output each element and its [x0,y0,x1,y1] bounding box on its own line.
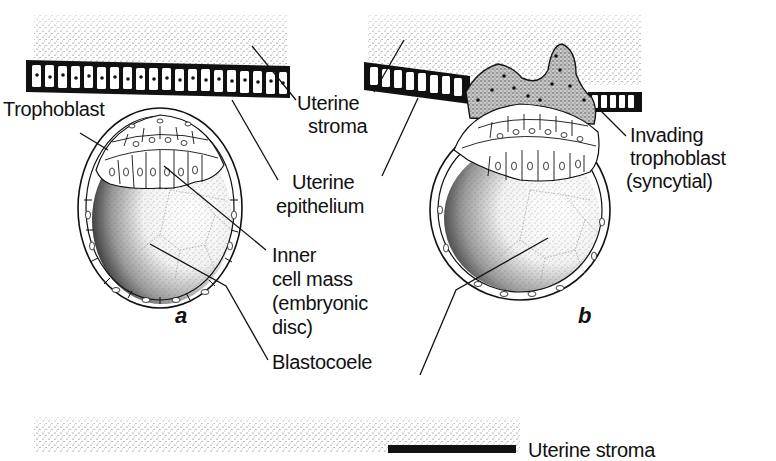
panel-letter-b: b [578,303,591,329]
label-uterine-epithelium-line2: epithelium [276,196,364,216]
label-inner-cell-mass-line1: Inner [272,245,316,265]
label-blastocoele: Blastocoele [272,352,372,372]
panel-letter-a: a [175,303,187,329]
label-uterine-stroma-line1: Uterine [297,93,359,113]
label-inner-cell-mass-line3: (embryonic [272,293,368,313]
label-invading-line3: (syncytial) [626,171,713,191]
label-inner-cell-mass-line4: disc) [272,317,313,337]
label-trophoblast: Trophoblast [3,99,105,119]
panel-a-stroma [34,15,288,67]
label-uterine-stroma-line2: stroma [308,116,367,136]
panel-a-epithelium [26,60,290,98]
label-invading-line2: trophoblast [630,148,726,168]
panel-c-stroma-partial [34,417,520,453]
panel-b-blastocyst [430,104,610,300]
panel-a-blastocyst [78,108,242,308]
label-inner-cell-mass-line2: cell mass [272,269,353,289]
label-invading-line1: Invading [630,125,703,145]
label-bottom-uterine-stroma: Uterine stroma [528,440,655,460]
label-uterine-epithelium-line1: Uterine [292,172,354,192]
